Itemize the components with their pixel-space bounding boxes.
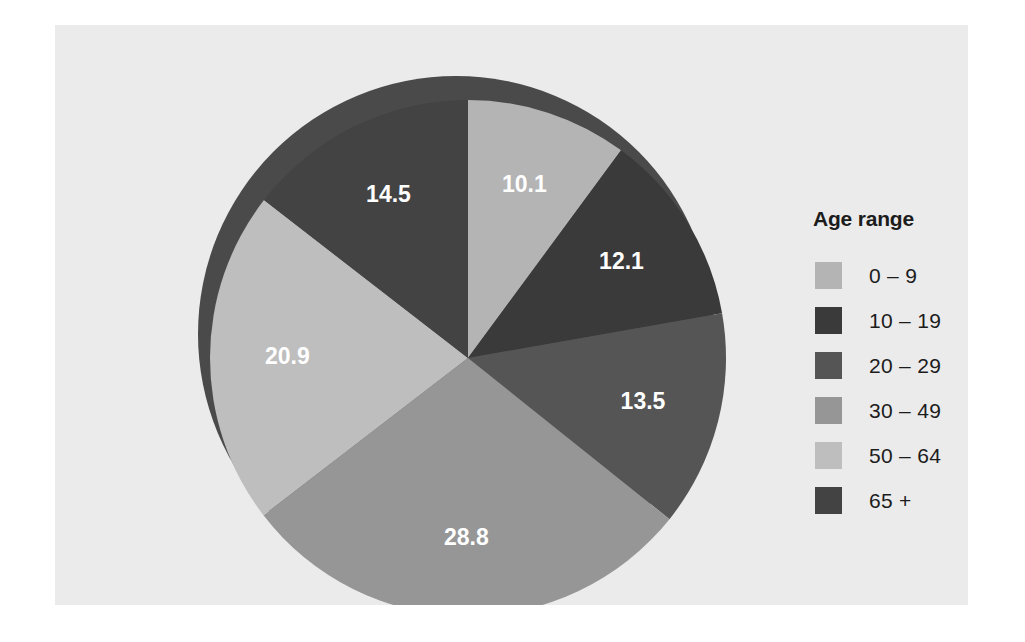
- legend-item[interactable]: 50 – 64: [815, 433, 975, 478]
- pie-chart-svg: 10.112.113.528.820.914.5: [55, 25, 755, 605]
- pie-slice-value-label: 14.5: [366, 181, 411, 207]
- legend-color-swatch: [815, 397, 842, 424]
- pie-chart-area: 10.112.113.528.820.914.5: [55, 25, 755, 605]
- figure-panel: 10.112.113.528.820.914.5 Age range 0 – 9…: [55, 25, 968, 605]
- legend-item[interactable]: 20 – 29: [815, 343, 975, 388]
- pie-slice-value-label: 10.1: [502, 171, 547, 197]
- legend-item[interactable]: 0 – 9: [815, 253, 975, 298]
- legend-color-swatch: [815, 442, 842, 469]
- legend-item-label: 30 – 49: [869, 399, 941, 423]
- legend-title: Age range: [813, 207, 914, 231]
- legend-color-swatch: [815, 487, 842, 514]
- legend-color-swatch: [815, 262, 842, 289]
- pie-slice-value-label: 20.9: [265, 343, 310, 369]
- legend-color-swatch: [815, 307, 842, 334]
- legend-item-label: 65 +: [869, 489, 912, 513]
- legend-item-label: 50 – 64: [869, 444, 941, 468]
- legend-color-swatch: [815, 352, 842, 379]
- pie-slice-value-label: 28.8: [444, 524, 489, 550]
- legend-item[interactable]: 65 +: [815, 478, 975, 523]
- legend-item-label: 0 – 9: [869, 264, 917, 288]
- legend-item[interactable]: 10 – 19: [815, 298, 975, 343]
- legend-item-label: 20 – 29: [869, 354, 941, 378]
- pie-slice-value-label: 12.1: [599, 248, 644, 274]
- legend-item[interactable]: 30 – 49: [815, 388, 975, 433]
- legend: Age range 0 – 910 – 1920 – 2930 – 4950 –…: [755, 185, 968, 515]
- legend-item-list: 0 – 910 – 1920 – 2930 – 4950 – 6465 +: [815, 253, 975, 523]
- legend-item-label: 10 – 19: [869, 309, 941, 333]
- pie-slice-value-label: 13.5: [621, 388, 666, 414]
